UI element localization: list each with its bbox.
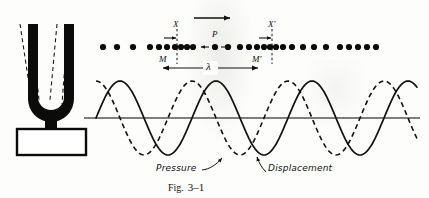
particle-dot — [178, 44, 184, 50]
label-m-prime: M′ — [252, 55, 261, 64]
particle-dot — [237, 44, 243, 50]
particle-dot — [337, 44, 343, 50]
particle-dot — [164, 44, 170, 50]
label-m: M — [159, 55, 167, 64]
label-p: P — [212, 30, 218, 39]
particle-dot — [156, 44, 162, 50]
particle-dot — [280, 44, 286, 50]
displacement-callout-leader — [257, 157, 266, 172]
particle-dot — [373, 44, 379, 50]
particle-dot — [184, 44, 190, 50]
particle-dot-row — [100, 44, 379, 50]
pressure-callout-leader — [202, 158, 222, 170]
figure-caption: Fig. 3–1 — [168, 178, 204, 194]
particle-dot-p — [212, 44, 218, 50]
label-x: X — [173, 20, 179, 29]
particle-dot — [261, 44, 267, 50]
particle-dot — [114, 44, 120, 50]
particle-dot — [311, 44, 317, 50]
caption-number: 3–1 — [188, 181, 205, 193]
fork-stem — [45, 112, 57, 130]
particle-dot — [364, 44, 370, 50]
particle-dot — [300, 44, 306, 50]
particle-dot — [190, 44, 196, 50]
label-pressure: Pressure — [156, 164, 197, 173]
particle-dot — [254, 44, 260, 50]
particle-dot — [289, 44, 295, 50]
particle-dot — [100, 44, 106, 50]
label-x-prime: X′ — [268, 20, 275, 29]
particle-dot — [273, 44, 279, 50]
particle-dot — [346, 44, 352, 50]
label-displacement: Displacement — [268, 164, 332, 173]
fork-body — [28, 24, 74, 122]
particle-dot — [130, 44, 136, 50]
figure-3-1: X X′ P M M′ λ Pressure Displacement Fig.… — [0, 0, 429, 198]
particle-dot — [355, 44, 361, 50]
label-wavelength: λ — [206, 61, 211, 72]
particle-dot — [147, 44, 153, 50]
caption-word: Fig. — [168, 182, 184, 193]
particle-dot — [323, 44, 329, 50]
tuning-fork — [17, 24, 86, 155]
fork-base — [17, 129, 86, 155]
particle-dot — [246, 44, 252, 50]
